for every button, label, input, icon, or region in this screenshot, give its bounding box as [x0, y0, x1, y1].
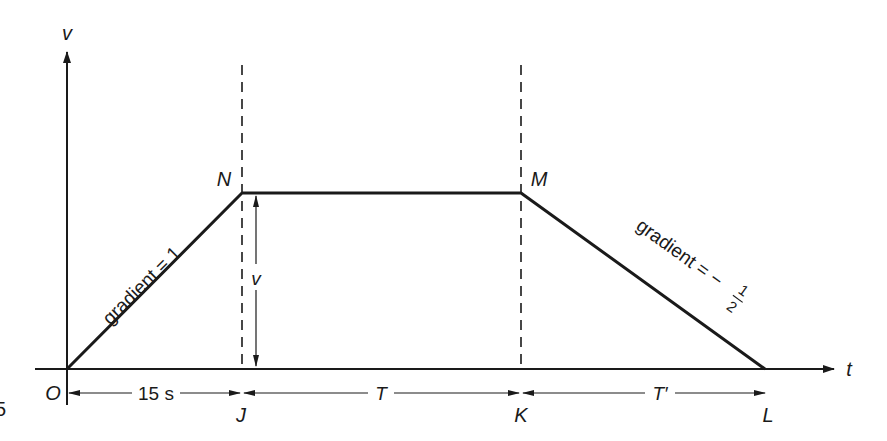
interval-oj-label: 15 s [138, 383, 174, 404]
edge-fragment-text: 5 [0, 398, 6, 420]
point-label-o: O [45, 382, 61, 404]
gradient-up-label-group: gradient = 1 [98, 242, 184, 328]
point-label-n: N [217, 168, 232, 190]
velocity-time-diagram: v 15 s T T′ v t N M O J K L gradient = 1… [0, 0, 887, 441]
point-label-k: K [514, 404, 529, 426]
gradient-down-numerator: 1 [736, 281, 753, 300]
gradient-down-label: gradient = − [633, 215, 728, 291]
interval-jk-label: T [375, 383, 388, 404]
height-marker-label: v [251, 268, 262, 289]
gradient-down-denominator: 2 [724, 297, 741, 316]
interval-kl-label: T′ [652, 383, 669, 404]
t-axis-label: t [846, 358, 853, 380]
point-label-j: J [235, 404, 247, 426]
point-label-l: L [762, 404, 773, 426]
y-axis-label: v [62, 22, 73, 44]
velocity-curve [67, 193, 765, 369]
gradient-down-label-group: gradient = − 1 2 [626, 210, 754, 316]
gradient-up-label: gradient = 1 [98, 242, 184, 328]
point-label-m: M [531, 168, 548, 190]
